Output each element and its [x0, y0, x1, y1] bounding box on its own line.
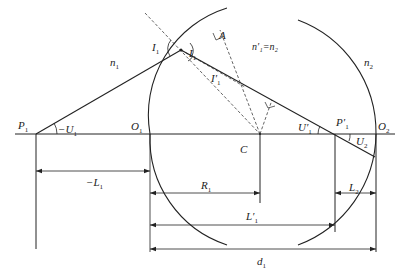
incident-ray: [36, 50, 181, 134]
perpendicular-to-refracted-ray: [260, 100, 272, 134]
refracted-ray: [181, 50, 375, 157]
label-U1-prime: U′1: [298, 122, 312, 136]
label-P1-prime: P′1: [336, 117, 349, 131]
label-C: C: [240, 144, 247, 155]
center-point: [259, 133, 261, 135]
label-n1-prime-equals-n2: n′₁=n₂: [252, 42, 278, 52]
label-P1: P1: [18, 120, 28, 134]
label-I1-refraction-side: I1: [189, 48, 196, 62]
label-n2: n2: [364, 57, 373, 71]
angle-arc-U1-prime: [318, 126, 320, 134]
label-R1: R1: [201, 180, 211, 194]
incidence-point: [180, 49, 183, 52]
label-U2: U2: [356, 136, 367, 150]
label-I1-prime: I′1: [211, 73, 221, 87]
label-A: A: [219, 30, 226, 41]
label-minus-L1: −L1: [86, 177, 103, 191]
label-L2: L2: [349, 182, 359, 196]
first-refracting-surface: [148, 8, 227, 245]
label-minus-U1: −U1: [58, 124, 77, 138]
label-n1: n1: [110, 57, 119, 71]
label-I1-incidence-angle: I1: [152, 42, 159, 56]
angle-arc-U2: [349, 134, 350, 141]
optics-diagram: P1 −U1 O1 n1 I1 I1 I′1 A n′₁=n₂ n2 C U′1…: [0, 0, 405, 276]
label-d1: d1: [257, 256, 266, 270]
label-O2: O2: [378, 121, 389, 135]
label-L1-prime: L′1: [246, 211, 258, 225]
angle-arc-U1: [54, 123, 57, 134]
label-O1: O1: [131, 121, 142, 135]
surface-normal: [145, 13, 260, 134]
